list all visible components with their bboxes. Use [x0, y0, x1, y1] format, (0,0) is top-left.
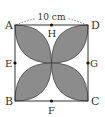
label-f: F: [48, 105, 55, 116]
petal-bottom-left: [15, 63, 52, 101]
label-b: B: [5, 95, 13, 108]
point-f: [50, 99, 53, 102]
petal-top-right: [52, 25, 89, 63]
square-flower-diagram: 10 cm A D B C H E G F: [0, 0, 105, 117]
label-c: C: [91, 95, 99, 108]
label-e: E: [5, 58, 12, 69]
label-h: H: [48, 28, 57, 39]
petal-top-left: [15, 25, 52, 63]
label-a: A: [4, 19, 14, 32]
point-h: [50, 23, 53, 26]
point-e: [13, 61, 16, 64]
petal-bottom-right: [52, 63, 89, 101]
label-g: G: [90, 58, 98, 69]
label-d: D: [91, 19, 100, 32]
dimension-label: 10 cm: [38, 12, 66, 22]
